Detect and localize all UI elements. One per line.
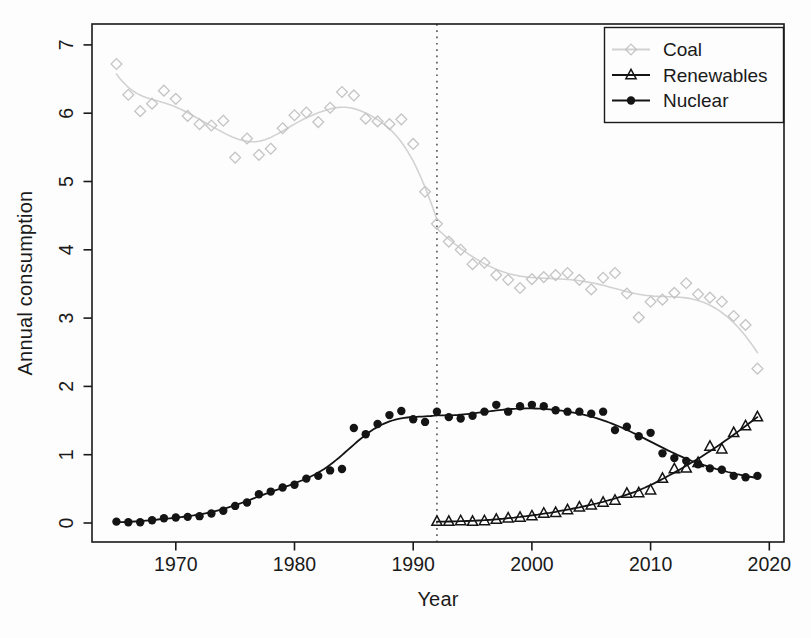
nuclear-point xyxy=(504,407,512,415)
nuclear-point xyxy=(492,401,500,409)
coal-point xyxy=(337,87,348,98)
coal-point xyxy=(586,284,597,295)
nuclear-point xyxy=(231,502,239,510)
nuclear-point xyxy=(255,490,263,498)
y-tick-label: 3 xyxy=(55,313,77,324)
nuclear-point xyxy=(623,422,631,430)
nuclear-point xyxy=(729,472,737,480)
nuclear-point xyxy=(540,402,548,410)
nuclear-point xyxy=(397,407,405,415)
coal-trend-line xyxy=(437,229,758,353)
nuclear-point xyxy=(706,464,714,472)
nuclear-point xyxy=(551,406,559,414)
nuclear-point xyxy=(362,430,370,438)
nuclear-point xyxy=(575,407,583,415)
x-tick-label: 2000 xyxy=(510,553,554,575)
nuclear-point xyxy=(385,411,393,419)
coal-point xyxy=(467,259,478,270)
renewables-point xyxy=(705,441,715,450)
nuclear-point xyxy=(207,509,215,517)
y-tick-label: 0 xyxy=(55,517,77,528)
x-tick-label: 2010 xyxy=(629,553,673,575)
x-tick-label: 1980 xyxy=(273,553,317,575)
legend-label-coal: Coal xyxy=(663,39,702,60)
nuclear-point xyxy=(183,513,191,521)
coal-point xyxy=(645,296,656,307)
y-tick-label: 1 xyxy=(55,449,77,460)
x-tick-label: 2020 xyxy=(748,553,792,575)
nuclear-point xyxy=(635,432,643,440)
coal-point xyxy=(681,278,692,289)
y-tick-label: 7 xyxy=(55,39,77,50)
coal-point xyxy=(230,152,241,163)
nuclear-point xyxy=(326,466,334,474)
nuclear-point xyxy=(160,514,168,522)
coal-point xyxy=(408,139,419,150)
coal-point xyxy=(289,110,300,121)
coal-point xyxy=(527,274,538,285)
nuclear-point xyxy=(563,407,571,415)
nuclear-point xyxy=(409,415,417,423)
coal-point xyxy=(111,59,122,70)
coal-point xyxy=(170,93,181,104)
plot-area: 19701980199020002010202001234567CoalRene… xyxy=(0,0,811,638)
nuclear-point xyxy=(682,457,690,465)
nuclear-point xyxy=(421,418,429,426)
nuclear-point xyxy=(587,410,595,418)
nuclear-point xyxy=(468,412,476,420)
nuclear-point xyxy=(219,507,227,515)
renewables-point xyxy=(669,463,679,472)
nuclear-point xyxy=(445,413,453,421)
x-axis-title: Year xyxy=(417,588,458,611)
nuclear-point xyxy=(480,407,488,415)
nuclear-point xyxy=(646,429,654,437)
nuclear-point xyxy=(753,472,761,480)
nuclear-trend-line xyxy=(117,415,437,522)
coal-point xyxy=(396,114,407,125)
coal-point xyxy=(503,274,514,285)
nuclear-point xyxy=(528,401,536,409)
nuclear-point xyxy=(433,407,441,415)
nuclear-point xyxy=(718,466,726,474)
nuclear-point xyxy=(243,498,251,506)
coal-point xyxy=(265,143,276,154)
coal-point xyxy=(610,268,621,279)
y-tick-label: 2 xyxy=(55,381,77,392)
nuclear-point xyxy=(136,518,144,526)
nuclear-point xyxy=(658,449,666,457)
nuclear-point xyxy=(350,424,358,432)
coal-point xyxy=(633,312,644,323)
nuclear-point xyxy=(611,426,619,434)
coal-point xyxy=(752,363,763,374)
nuclear-point xyxy=(124,518,132,526)
chart-figure: 19701980199020002010202001234567CoalRene… xyxy=(0,0,811,638)
coal-point xyxy=(135,106,146,117)
coal-point xyxy=(740,320,751,331)
renewables-point xyxy=(752,411,762,420)
nuclear-point xyxy=(599,407,607,415)
coal-point xyxy=(253,149,264,160)
coal-point xyxy=(705,292,716,303)
legend-marker-nuclear xyxy=(627,96,635,104)
nuclear-point xyxy=(290,481,298,489)
coal-point xyxy=(515,283,526,294)
coal-point xyxy=(313,117,324,128)
coal-point xyxy=(194,119,205,130)
coal-point xyxy=(562,268,573,279)
coal-point xyxy=(693,289,704,300)
nuclear-point xyxy=(314,472,322,480)
coal-point xyxy=(348,90,359,101)
coal-point xyxy=(716,296,727,307)
coal-point xyxy=(598,272,609,283)
coal-point xyxy=(159,85,170,96)
nuclear-point xyxy=(694,460,702,468)
nuclear-point xyxy=(267,487,275,495)
legend-label-renewables: Renewables xyxy=(663,65,768,86)
nuclear-point xyxy=(195,512,203,520)
coal-point xyxy=(621,288,632,299)
nuclear-point xyxy=(373,420,381,428)
nuclear-point xyxy=(148,516,156,524)
y-tick-label: 4 xyxy=(55,244,77,255)
nuclear-point xyxy=(302,474,310,482)
coal-point xyxy=(538,272,549,283)
